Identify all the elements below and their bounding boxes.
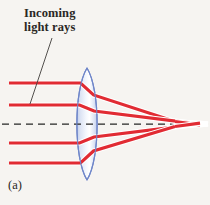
panel-label: (a): [8, 178, 22, 192]
annotation-line-1: Incoming: [24, 6, 76, 20]
incoming-light-rays-label: Incominglight rays: [24, 6, 76, 34]
annotation-line-2: light rays: [24, 20, 75, 34]
ray-crossing-tail: [175, 122, 208, 127]
lens-diagram-figure: Incominglight rays (a): [0, 0, 210, 205]
